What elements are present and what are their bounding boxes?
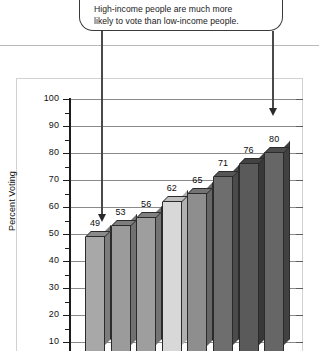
bar-front-face [85,237,105,351]
annotation-callout-line-2: likely to vote than low-income people. [80,15,282,27]
bar-front-face [213,177,233,351]
bar [136,212,156,351]
bar-value-label: 65 [183,175,211,185]
bar-value-label: 53 [107,207,135,217]
bar-side-face [284,141,290,345]
bar [264,147,284,351]
y-axis-tick-right [296,288,303,289]
bar-front-face [187,194,207,351]
bar-front-face [239,164,259,351]
y-axis-tick [63,315,70,316]
y-axis-tick [63,342,70,343]
y-axis-tick-right [296,261,303,262]
bar-value-label: 76 [235,145,263,155]
bar-value-label: 56 [132,199,160,209]
bar [187,188,207,351]
y-axis-tick-label: 40 [33,255,59,265]
annotation-leader-left [101,31,103,215]
bar-value-label: 62 [158,183,186,193]
gridline [71,99,303,100]
bar [162,196,182,351]
y-axis-minor-tick [65,275,70,276]
y-axis-minor-tick [65,140,70,141]
bar [111,220,131,351]
y-axis-line [69,98,71,351]
y-axis-tick-label: 30 [33,282,59,292]
bar [239,158,259,351]
arrowhead-down-icon [98,214,106,222]
y-axis-tick-right [296,153,303,154]
y-axis-tick [63,99,70,100]
y-axis-tick-right [296,99,303,100]
bar-value-label: 80 [260,134,288,144]
y-axis-tick [63,153,70,154]
y-axis-tick-label: 10 [33,336,59,346]
y-axis-tick [63,207,70,208]
y-axis-tick-label: 90 [33,120,59,130]
y-axis-tick [63,288,70,289]
y-axis-tick-right [296,234,303,235]
gridline [71,126,303,127]
y-axis-tick [63,234,70,235]
bar-front-face [162,202,182,351]
bar-front-face [136,218,156,351]
bar [213,171,233,351]
bar [85,231,105,351]
y-axis-tick-label: 60 [33,201,59,211]
y-axis-tick-right [296,126,303,127]
arrowhead-down-icon [269,108,277,116]
y-axis-minor-tick [65,329,70,330]
y-axis-tick-right [296,315,303,316]
y-axis-tick-right [296,180,303,181]
y-axis-minor-tick [65,194,70,195]
y-axis-minor-tick [65,302,70,303]
y-axis-minor-tick [65,113,70,114]
y-axis-tick [63,180,70,181]
bar-front-face [111,226,131,351]
y-axis-tick [63,126,70,127]
bar-value-label: 71 [209,158,237,168]
y-axis-tick-label: 50 [33,228,59,238]
y-axis-tick-label: 100 [33,93,59,103]
y-axis-tick-right [296,342,303,343]
y-axis-tick-right [296,207,303,208]
y-axis-minor-tick [65,248,70,249]
y-axis-tick-label: 20 [33,309,59,319]
y-axis-tick [63,261,70,262]
y-axis-tick-label: 70 [33,174,59,184]
y-axis-minor-tick [65,221,70,222]
annotation-callout-line-1: High-income people are much more [80,0,282,15]
annotation-callout: High-income people are much more likely … [79,0,283,31]
y-axis-tick-label: 80 [33,147,59,157]
y-axis-title: Percent Voting [7,171,17,231]
annotation-leader-right [272,31,274,109]
y-axis-minor-tick [65,167,70,168]
bar-front-face [264,153,284,351]
